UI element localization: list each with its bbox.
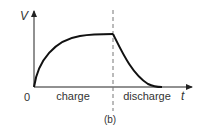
x-axis-label: t [181, 89, 185, 103]
charge-label: charge [56, 90, 90, 102]
discharge-curve [113, 34, 162, 87]
charge-discharge-diagram: V 0 charge discharge t (b) [0, 0, 202, 132]
charge-curve [34, 34, 113, 87]
caption: (b) [104, 114, 116, 125]
origin-label: 0 [24, 91, 30, 103]
y-axis-label: V [20, 9, 29, 23]
discharge-label: discharge [123, 90, 171, 102]
